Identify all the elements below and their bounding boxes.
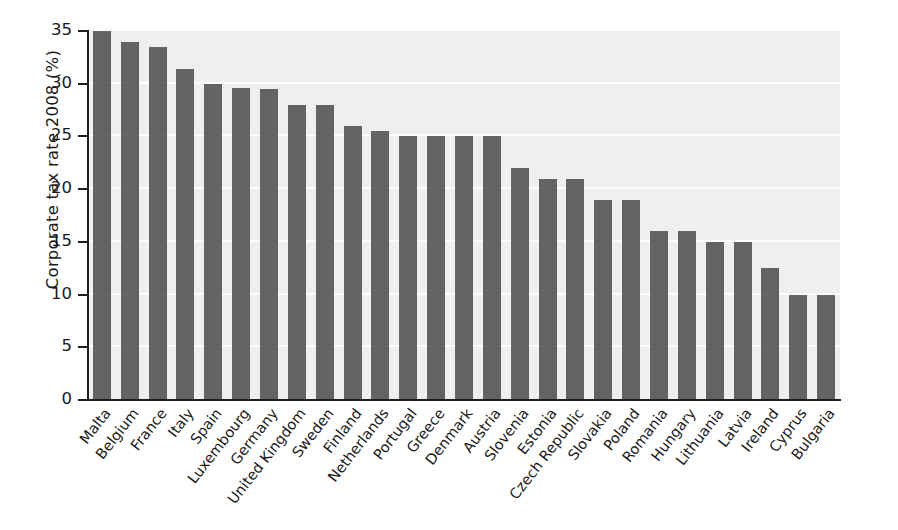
bar — [316, 105, 334, 400]
bar — [288, 105, 306, 400]
bar — [817, 295, 835, 400]
bar — [93, 31, 111, 400]
bar — [706, 242, 724, 400]
figure-caption — [30, 523, 870, 530]
bar — [511, 168, 529, 400]
bar — [734, 242, 752, 400]
y-axis-tick-label: 15 — [51, 233, 72, 250]
bars-group — [88, 31, 840, 400]
bar — [678, 231, 696, 400]
y-axis-tick — [78, 188, 87, 190]
y-axis-tick — [78, 135, 87, 137]
bar — [622, 200, 640, 400]
bar — [594, 200, 612, 400]
bar — [399, 136, 417, 400]
bar — [260, 89, 278, 400]
bar — [483, 136, 501, 400]
bar — [371, 131, 389, 400]
bar — [427, 136, 445, 400]
y-axis-tick-label: 5 — [62, 338, 73, 355]
y-axis-tick-label: 20 — [51, 180, 72, 197]
bar — [232, 88, 250, 400]
bar — [149, 47, 167, 400]
y-axis-tick-label: 25 — [51, 127, 72, 144]
y-axis-tick-label: 30 — [51, 75, 72, 92]
y-axis-tick — [78, 241, 87, 243]
bar — [566, 179, 584, 400]
y-axis-tick-label: 0 — [62, 391, 73, 408]
y-axis-tick — [78, 346, 87, 348]
y-axis-tick — [78, 30, 87, 32]
bar — [761, 268, 779, 400]
y-axis-tick — [78, 294, 87, 296]
plot-area — [88, 31, 840, 400]
bar — [539, 179, 557, 400]
bar — [344, 126, 362, 400]
bar — [121, 42, 139, 400]
bar — [176, 69, 194, 400]
x-axis-spine — [87, 399, 841, 401]
y-axis-tick-label: 10 — [51, 286, 72, 303]
y-axis-tick — [78, 83, 87, 85]
y-axis-tick-label: 35 — [51, 22, 72, 39]
bar — [204, 84, 222, 400]
bar — [789, 295, 807, 400]
y-axis-spine — [87, 30, 89, 401]
bar — [650, 231, 668, 400]
bar-chart-figure: Corporate tax rate 2008 (%) 051015202530… — [0, 0, 898, 530]
bar — [455, 136, 473, 400]
y-axis-tick — [78, 399, 87, 401]
